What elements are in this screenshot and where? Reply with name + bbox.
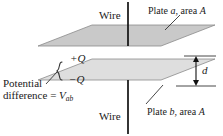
potential-difference-line2-prefix: difference = (3, 89, 59, 101)
plate-a-label-suffix: , area (176, 5, 200, 16)
wire-top-label: Wire (99, 9, 121, 21)
potential-difference-label: Potential difference = Vab (3, 77, 73, 104)
plate-b-label: Plate b, area A (147, 106, 205, 117)
plate-b-label-prefix: Plate (147, 106, 170, 117)
potential-difference-symbol: V (59, 89, 66, 101)
charge-positive-label: +Q (70, 52, 85, 64)
capacitor-figure: Wire Wire Plate a, area A Plate b, area … (0, 0, 223, 136)
plate-a-label-prefix: Plate (148, 5, 171, 16)
plate-a-label-area: A (200, 5, 206, 16)
plate-b-label-suffix: , area (175, 106, 199, 117)
separation-label: d (202, 64, 208, 76)
plate-a-shape (38, 25, 215, 46)
plate-b-label-area: A (199, 106, 205, 117)
plate-a-label: Plate a, area A (148, 5, 206, 16)
potential-difference-subscript: ab (66, 94, 73, 103)
potential-difference-line1: Potential (3, 77, 73, 89)
potential-difference-line2: difference = Vab (3, 89, 73, 103)
plate-b-leader-line (146, 85, 163, 104)
separation-arrowhead-down (193, 80, 199, 86)
wire-bottom-label: Wire (99, 110, 121, 122)
